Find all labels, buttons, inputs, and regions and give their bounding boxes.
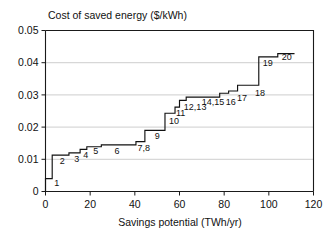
measure-label: 7,8 xyxy=(138,143,151,153)
measure-number-labels: 1234567,89101112,1314,151617181920 xyxy=(54,52,292,188)
measure-label: 19 xyxy=(263,58,273,68)
measure-label: 1 xyxy=(54,178,59,188)
x-tick-label: 100 xyxy=(260,198,278,210)
y-tick-label: 0 xyxy=(33,185,39,197)
measure-label: 17 xyxy=(237,93,247,103)
measure-label: 4 xyxy=(83,150,88,160)
measure-label: 3 xyxy=(74,154,79,164)
measure-label: 6 xyxy=(114,146,119,156)
chart-figure: 00.010.020.030.040.05 020406080100120 12… xyxy=(0,0,334,234)
y-tick-label: 0.03 xyxy=(18,89,39,101)
measure-label: 14,15 xyxy=(202,97,225,107)
gridlines xyxy=(46,31,314,160)
y-tick-labels: 00.010.020.030.040.05 xyxy=(18,24,39,197)
y-tick-label: 0.04 xyxy=(18,56,39,68)
y-tick-label: 0.01 xyxy=(18,153,39,165)
measure-label: 18 xyxy=(255,88,265,98)
x-axis-title: Savings potential (TWh/yr) xyxy=(118,216,242,228)
x-tick-label: 0 xyxy=(43,198,49,210)
measure-label: 2 xyxy=(60,156,65,166)
measure-label: 20 xyxy=(282,52,292,62)
measure-label: 5 xyxy=(93,146,98,156)
y-tick-label: 0.05 xyxy=(18,24,39,36)
x-tick-label: 60 xyxy=(174,198,186,210)
measure-label: 16 xyxy=(226,97,236,107)
step-chart-canvas: 00.010.020.030.040.05 020406080100120 12… xyxy=(0,0,334,234)
y-tick-label: 0.02 xyxy=(18,121,39,133)
x-tick-labels: 020406080100120 xyxy=(43,198,323,210)
x-tick-label: 120 xyxy=(305,198,323,210)
x-tick-label: 20 xyxy=(84,198,96,210)
x-tick-label: 40 xyxy=(129,198,141,210)
measure-label: 9 xyxy=(155,131,160,141)
x-tick-label: 80 xyxy=(218,198,230,210)
page-title: Cost of saved energy ($/kWh) xyxy=(48,9,187,21)
